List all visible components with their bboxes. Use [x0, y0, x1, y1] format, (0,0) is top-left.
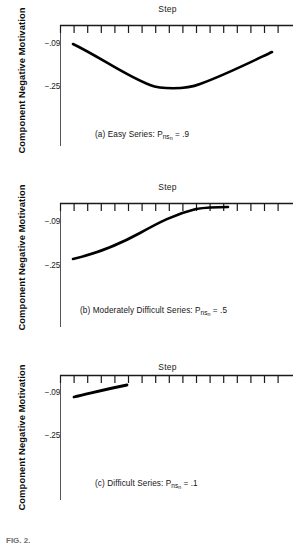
- plot-area-panel-c: [0, 352, 307, 532]
- caption-value-panel-b: = .5: [213, 306, 227, 315]
- figure-number-caption: FIG. 2.: [6, 536, 30, 544]
- plot-area-panel-b: [0, 172, 307, 352]
- caption-prefix-panel-c: (c) Difficult Series:: [95, 479, 163, 488]
- caption-panel-b: (b) Moderately Difficult Series: Pnsn = …: [80, 306, 227, 315]
- caption-panel-a: (a) Easy Series: Pnsn = .9: [95, 130, 189, 139]
- data-curve-panel-a: [73, 44, 272, 88]
- panel-moderately-difficult-series: Step Component Negative Motivation −.09 …: [0, 172, 307, 352]
- panel-difficult-series: Step Component Negative Motivation −.09 …: [0, 352, 307, 532]
- caption-value-panel-c: = .1: [183, 479, 197, 488]
- caption-symbol-panel-b: Pnsn: [195, 306, 213, 315]
- caption-symbol-panel-a: Pnsn: [157, 130, 175, 139]
- caption-prefix-panel-b: (b) Moderately Difficult Series:: [80, 306, 193, 315]
- plot-area-panel-a: [0, 0, 307, 172]
- caption-prefix-panel-a: (a) Easy Series:: [95, 130, 155, 139]
- data-curve-panel-c: [74, 385, 127, 397]
- figure-container: Step Component Negative Motivation −.09 …: [0, 0, 307, 544]
- panel-easy-series: Step Component Negative Motivation −.09 …: [0, 0, 307, 172]
- data-curve-panel-b: [73, 207, 228, 259]
- caption-symbol-panel-c: Pnsn: [166, 479, 184, 488]
- caption-value-panel-a: = .9: [175, 130, 189, 139]
- caption-panel-c: (c) Difficult Series: Pnsn = .1: [95, 479, 198, 488]
